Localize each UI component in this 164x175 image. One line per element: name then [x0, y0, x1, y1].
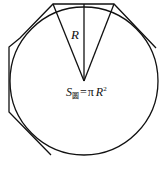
- radius-label: R: [70, 27, 79, 42]
- sector-right-edge: [84, 4, 114, 81]
- sector-left-edge: [53, 4, 84, 81]
- area-formula: S圆=πR2: [66, 85, 107, 100]
- circle-area-diagram: R S圆=πR2: [0, 0, 164, 175]
